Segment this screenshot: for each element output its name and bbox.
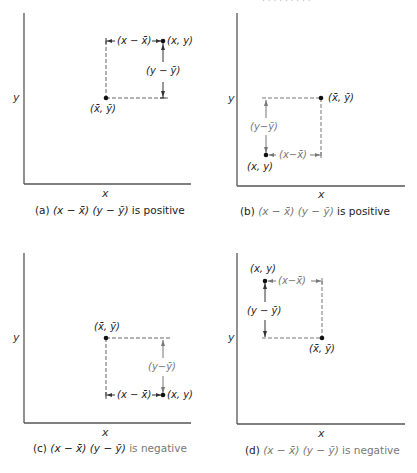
caption-suffix: is positive [132,204,185,216]
caption-prefix: (b) [240,205,255,217]
caption-expr: (x − x̄) (y − ȳ) [53,204,129,216]
dy-label: (y−ȳ) [148,362,176,372]
data-point-label: (x, y) [247,162,273,172]
mean-point [104,336,109,341]
data-point [161,393,166,398]
caption-d: (d) (x − x̄) (y − ȳ) is negative [245,445,400,456]
mean-point-label: (x̄, ȳ) [328,93,354,103]
mean-point-label: (x̄, ȳ) [309,344,335,354]
data-point [263,279,268,284]
mean-point [320,336,325,341]
caption-c: (c) (x − x̄) (y − ȳ) is negative [33,443,187,454]
caption-suffix: is negative [129,442,187,454]
data-point [161,39,166,44]
panel-d-drawing [210,240,417,473]
panel-a: y x (x − x̄) (x, y) (y − ȳ) (x̄, ȳ) (a) … [0,0,208,230]
y-axis-label: y [228,332,235,343]
dy-label: (y − ȳ) [247,306,281,316]
dx-label: (x−x̄) [278,276,306,286]
caption-expr: (x − x̄) (y − ȳ) [258,205,334,217]
data-point-label: (x, y) [167,390,193,400]
y-axis-label: y [13,92,20,103]
x-axis-label: x [102,188,109,199]
x-axis-label: x [102,427,109,438]
dx-label: (x − x̄) [117,390,151,400]
mean-point-label: (x̄, ȳ) [94,322,120,332]
panel-d: y x (x, y) (x−x̄) (y − ȳ) (x̄, ȳ) (d) (x… [210,240,417,473]
caption-suffix: is positive [337,205,390,217]
caption-b: (b) (x − x̄) (y − ȳ) is positive [240,206,390,217]
mean-point [104,96,109,101]
mean-point-label: (x̄, ȳ) [90,104,116,114]
panel-b: y x (x̄, ȳ) (y−ȳ) (x−x̄) (x, y) (b) (x −… [210,0,417,230]
x-axis-label: x [318,428,325,439]
caption-prefix: (a) [35,204,50,216]
caption-prefix: (d) [245,444,260,456]
data-point-label: (x, y) [167,36,193,46]
caption-expr: (x − x̄) (y − ȳ) [263,444,339,456]
panel-b-drawing [210,0,417,230]
caption-a: (a) (x − x̄) (y − ȳ) is positive [35,205,185,216]
panel-c: y x (x̄, ȳ) (y−ȳ) (x − x̄) (x, y) (c) (x… [0,240,208,473]
dy-label: (y−ȳ) [250,122,278,132]
x-axis-label: x [318,189,325,200]
dx-label: (x−x̄) [279,150,307,160]
dx-label: (x − x̄) [117,36,151,46]
mean-point [319,96,324,101]
y-axis-label: y [13,332,20,343]
caption-suffix: is negative [342,444,400,456]
y-axis-label: y [228,93,235,104]
caption-prefix: (c) [33,442,47,454]
dy-label: (y − ȳ) [146,66,180,76]
caption-expr: (x − x̄) (y − ȳ) [50,442,126,454]
data-point [264,153,269,158]
data-point-label: (x, y) [250,264,276,274]
